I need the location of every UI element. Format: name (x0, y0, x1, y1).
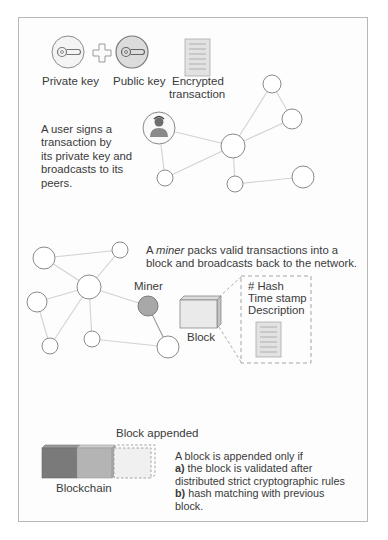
encrypted-label-line1: Encrypted (172, 75, 224, 87)
block-callout-line (219, 327, 241, 362)
block-callout-line (219, 277, 241, 297)
peer-hub-node (77, 275, 101, 299)
block-hash-field: # Hash (248, 280, 307, 292)
user-signs-description: A user signs a transaction by its privat… (41, 123, 132, 190)
peer-hub-node (221, 134, 245, 158)
block-timestamp-field: Time stamp (248, 292, 307, 304)
block-cube-icon (180, 296, 221, 328)
public-key-icon (116, 36, 148, 68)
encrypted-transaction-label-2: transaction (169, 88, 225, 101)
block-appended-label: Block appended (116, 427, 198, 440)
miner-description: A miner packs valid transactions into a … (146, 244, 357, 271)
encrypted-document-icon (185, 39, 210, 76)
user-icon (143, 112, 175, 144)
miner-term: miner (156, 244, 184, 256)
miner-node (138, 296, 158, 316)
peer-node (227, 176, 243, 192)
peer-node (33, 247, 55, 269)
peer-node (112, 242, 128, 258)
peer-node (282, 109, 302, 129)
peer-node (157, 336, 179, 358)
plus-icon (93, 44, 111, 62)
block-document-icon (256, 322, 281, 357)
appended-block-icon (114, 445, 155, 478)
encrypted-transaction-label: Encrypted (172, 75, 224, 88)
private-key-icon (52, 36, 84, 68)
blockchain-icon (42, 445, 115, 478)
miner-label: Miner (134, 280, 163, 293)
private-key-label: Private key (42, 75, 99, 88)
public-key-label: Public key (113, 75, 165, 88)
peer-node (292, 166, 314, 188)
block-label: Block (187, 331, 215, 344)
block-description-field: Description (248, 304, 307, 316)
peer-node (27, 292, 47, 312)
peer-node (42, 338, 58, 354)
peer-node (157, 170, 173, 186)
peer-node (84, 331, 100, 347)
block-details-list: # Hash Time stamp Description (248, 280, 307, 316)
blockchain-label: Blockchain (56, 482, 112, 495)
peer-node (263, 75, 281, 93)
append-rules: A block is appended only if a) the block… (175, 450, 345, 512)
